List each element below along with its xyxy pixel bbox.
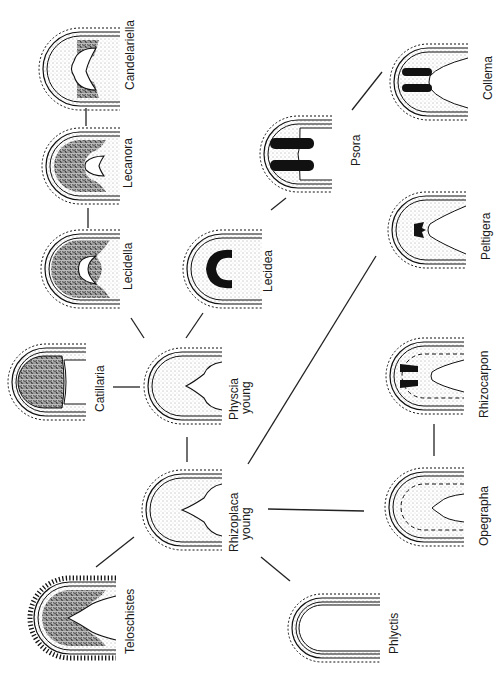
node-physcia: Physcia young [144,348,253,424]
edge-rhizoplaca-phlyctis [261,557,290,581]
node-collema: Collema [390,44,495,120]
node-peltigera: Peltigera [388,192,493,268]
node-psora: Psora [260,116,363,192]
label-candelariella: Candelariella [123,20,137,90]
edge-psora-collema [352,72,382,110]
label-teloschistes: Teloschistes [123,589,137,654]
node-catillaria: Catillaria [8,344,107,420]
label-opegrapha: Opegrapha [477,486,491,546]
node-candelariella: Candelariella [39,20,137,110]
sublabel-rhizoplaca: young [239,507,253,540]
label-collema: Collema [481,56,495,100]
node-lecanora: Lecanora [42,128,135,204]
edge-lecidella-physcia [131,318,144,338]
node-teloschistes: Teloschistes [30,578,137,658]
edge-lecidea-psora [271,198,286,210]
label-phlyctis: Phlyctis [387,613,401,654]
lichen-apothecia-diagram: Candelariella Lecanora Lecidella Lecidea… [0,0,498,677]
node-opegrapha: Opegrapha [385,468,491,546]
edge-rhizoplaca-opegrapha [268,509,364,511]
label-lecanora: Lecanora [121,138,135,188]
label-lecidella: Lecidella [121,242,135,290]
label-catillaria: Catillaria [93,365,107,412]
node-phlyctis: Phlyctis [288,594,401,662]
edge-rhizoplaca-teloschistes [96,537,134,567]
edge-lecidea-physcia [186,313,203,338]
node-rhizoplaca: Rhizoplaca young [142,470,253,552]
label-lecidea: Lecidea [261,250,275,292]
node-rhizocarpon: Rhizocarpon [386,338,491,418]
edges [86,72,434,581]
node-lecidella: Lecidella [41,230,135,308]
node-lecidea: Lecidea [183,230,275,308]
sublabel-physcia: young [239,381,253,414]
label-psora: Psora [349,134,363,166]
label-rhizocarpon: Rhizocarpon [477,351,491,418]
label-peltigera: Peltigera [479,212,493,260]
